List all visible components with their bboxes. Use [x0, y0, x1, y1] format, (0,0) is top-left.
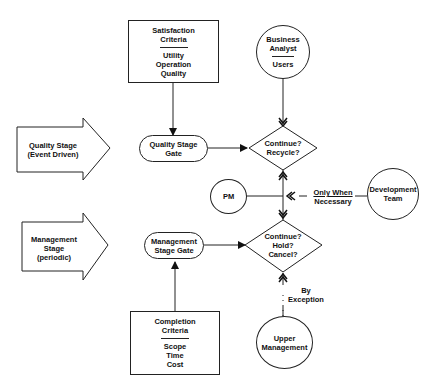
management-stage-label: Management Stage (periodic) — [26, 235, 82, 262]
upper-mgmt-line1: Upper — [274, 334, 296, 343]
completion-item: Scope — [164, 342, 187, 351]
decision-quality-label: Continue? Recycle? — [258, 139, 308, 157]
pm-label: PM — [223, 192, 234, 201]
divider — [160, 47, 188, 48]
completion-item: Cost — [167, 360, 184, 369]
mgmt-gate-line2: Stage Gate — [154, 246, 193, 255]
satisfaction-title-1: Satisfaction — [152, 26, 195, 35]
quality-stage-line1: Quality Stage — [25, 141, 81, 150]
by-exception-line2: Exception — [288, 295, 324, 304]
ba-title-2: Analyst — [269, 44, 296, 53]
mgmt-stage-line1: Management — [26, 235, 82, 244]
satisfaction-item: Quality — [161, 69, 186, 78]
quality-stage-label: Quality Stage (Event Driven) — [25, 141, 81, 159]
completion-criteria-box: Completion Criteria Scope Time Cost — [130, 311, 220, 375]
dev-team-line1: Development — [369, 185, 416, 194]
completion-title-1: Completion — [154, 317, 195, 326]
decision-management-label: Continue? Hold? Cancel? — [258, 232, 308, 259]
decision-mgmt-line1: Continue? — [258, 232, 308, 241]
decision-quality-line1: Continue? — [258, 139, 308, 148]
ba-sub: Users — [273, 60, 294, 69]
quality-stage-gate: Quality Stage Gate — [139, 135, 208, 162]
business-analyst-node: Business Analyst Users — [256, 25, 310, 79]
completion-item: Time — [166, 351, 183, 360]
ba-title-1: Business — [266, 35, 299, 44]
mgmt-stage-line3: (periodic) — [26, 253, 82, 262]
dev-team-line2: Team — [383, 194, 402, 203]
only-when-necessary-label: Only When Necessary — [312, 188, 354, 206]
mgmt-gate-line1: Management — [151, 237, 197, 246]
by-exception-line1: By — [288, 286, 324, 295]
satisfaction-item: Utility — [163, 51, 184, 60]
decision-quality-line2: Recycle? — [258, 148, 308, 157]
satisfaction-title-2: Criteria — [160, 35, 186, 44]
only-when-line2: Necessary — [312, 197, 354, 206]
development-team-node: Development Team — [367, 168, 419, 220]
satisfaction-item: Operation — [156, 60, 191, 69]
mgmt-stage-line2: Stage — [26, 244, 82, 253]
decision-mgmt-line2: Hold? — [258, 241, 308, 250]
completion-title-2: Criteria — [162, 326, 188, 335]
only-when-line1: Only When — [312, 188, 354, 197]
quality-gate-line1: Quality Stage — [150, 140, 198, 149]
upper-management-node: Upper Management — [256, 316, 313, 369]
satisfaction-criteria-box: Satisfaction Criteria Utility Operation … — [128, 20, 219, 83]
by-exception-label: By Exception — [288, 286, 324, 304]
decision-mgmt-line3: Cancel? — [258, 250, 308, 259]
pm-node: PM — [210, 179, 247, 214]
upper-mgmt-line2: Management — [262, 343, 308, 352]
divider — [272, 56, 294, 57]
quality-stage-line2: (Event Driven) — [25, 150, 81, 159]
quality-gate-line2: Gate — [165, 149, 182, 158]
divider — [161, 338, 189, 339]
management-stage-gate: Management Stage Gate — [144, 232, 204, 259]
